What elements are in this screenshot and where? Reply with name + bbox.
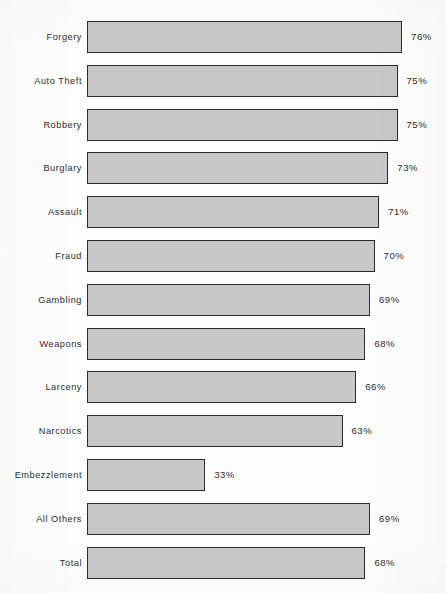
bar-value-label: 75%: [407, 109, 428, 141]
bar-track: 69%: [87, 503, 446, 535]
bar-value-label: 75%: [407, 65, 428, 97]
bar-rect: [87, 459, 205, 491]
bar-category-label: Embezzlement: [0, 459, 82, 491]
bar-row: Auto Theft75%: [0, 65, 446, 97]
bar-track: 71%: [87, 196, 446, 228]
bar-track: 33%: [87, 459, 446, 491]
bar-rect: [87, 371, 356, 403]
bar-row: Weapons68%: [0, 328, 446, 360]
bar-value-label: 68%: [374, 547, 395, 579]
bar-category-label: Robbery: [0, 109, 82, 141]
bar-value-label: 66%: [365, 371, 386, 403]
bar-track: 68%: [87, 547, 446, 579]
bar-row: Forgery76%: [0, 21, 446, 53]
bar-value-label: 70%: [384, 240, 405, 272]
bar-rect: [87, 503, 370, 535]
bar-category-label: Fraud: [0, 240, 82, 272]
bar-row: Assault71%: [0, 196, 446, 228]
bar-value-label: 68%: [374, 328, 395, 360]
bar-value-label: 63%: [352, 415, 373, 447]
bar-category-label: Weapons: [0, 328, 82, 360]
bar-value-label: 69%: [379, 503, 400, 535]
bar-category-label: Burglary: [0, 152, 82, 184]
bar-rect: [87, 109, 398, 141]
bar-value-label: 76%: [411, 21, 432, 53]
bar-value-label: 33%: [214, 459, 235, 491]
bar-row: Larceny66%: [0, 371, 446, 403]
bar-track: 73%: [87, 152, 446, 184]
bar-category-label: Forgery: [0, 21, 82, 53]
bar-row: Narcotics63%: [0, 415, 446, 447]
bar-category-label: Assault: [0, 196, 82, 228]
bar-category-label: Total: [0, 547, 82, 579]
bar-category-label: Gambling: [0, 284, 82, 316]
bar-rect: [87, 21, 402, 53]
bar-track: 68%: [87, 328, 446, 360]
bar-category-label: Larceny: [0, 371, 82, 403]
bar-track: 63%: [87, 415, 446, 447]
bar-row: Burglary73%: [0, 152, 446, 184]
bar-row: Gambling69%: [0, 284, 446, 316]
bar-track: 75%: [87, 65, 446, 97]
bar-category-label: Narcotics: [0, 415, 82, 447]
bar-rect: [87, 415, 343, 447]
bar-row: Robbery75%: [0, 109, 446, 141]
bar-value-label: 73%: [397, 152, 418, 184]
bar-track: 76%: [87, 21, 446, 53]
bar-chart: Forgery76%Auto Theft75%Robbery75%Burglar…: [0, 0, 446, 593]
bar-row: Total68%: [0, 547, 446, 579]
bar-category-label: Auto Theft: [0, 65, 82, 97]
bar-rect: [87, 196, 379, 228]
bar-rect: [87, 328, 365, 360]
bar-track: 70%: [87, 240, 446, 272]
bar-category-label: All Others: [0, 503, 82, 535]
bar-value-label: 69%: [379, 284, 400, 316]
bar-track: 75%: [87, 109, 446, 141]
bar-rect: [87, 65, 398, 97]
bar-value-label: 71%: [388, 196, 409, 228]
bar-row: Fraud70%: [0, 240, 446, 272]
bar-rect: [87, 284, 370, 316]
bar-rect: [87, 240, 375, 272]
bar-row: All Others69%: [0, 503, 446, 535]
bar-row: Embezzlement33%: [0, 459, 446, 491]
bar-track: 69%: [87, 284, 446, 316]
bar-track: 66%: [87, 371, 446, 403]
bar-rect: [87, 547, 365, 579]
bar-rect: [87, 152, 388, 184]
